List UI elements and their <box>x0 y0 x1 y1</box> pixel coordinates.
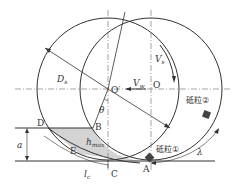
label-theta: θ <box>99 105 105 115</box>
label-grain-1: 砥粒① <box>156 144 179 154</box>
label-o-prime: O′ <box>111 85 120 95</box>
theta-arc <box>104 99 108 100</box>
label-point-b: B <box>95 122 102 132</box>
label-o: O <box>153 80 160 90</box>
depth-arrow-top-icon <box>25 128 29 133</box>
diagram-canvas: Ds O′ O Vw Vs θ D B E C A a hmax lc λ 砥粒… <box>0 0 239 189</box>
label-vw: Vw <box>133 78 146 89</box>
grain-2-icon <box>202 110 211 119</box>
label-vs: Vs <box>155 54 165 65</box>
label-grain-2: 砥粒② <box>186 95 209 105</box>
label-depth-a: a <box>17 140 22 150</box>
label-point-c: C <box>111 169 118 179</box>
label-point-a: A <box>142 164 150 174</box>
radius-upper <box>108 12 125 89</box>
label-ds: Ds <box>56 74 67 85</box>
lambda-arrow-right-icon <box>214 128 219 134</box>
label-lc: lc <box>84 169 91 180</box>
vw-arrow-icon <box>125 87 131 91</box>
depth-arrow-bottom-icon <box>25 156 29 161</box>
label-lambda: λ <box>196 147 203 157</box>
vs-arrow-icon <box>172 76 176 83</box>
grinding-diagram: Ds O′ O Vw Vs θ D B E C A a hmax lc λ 砥粒… <box>0 0 239 189</box>
diameter-line <box>45 48 108 89</box>
label-point-d: D <box>37 118 44 128</box>
label-point-e: E <box>70 146 77 156</box>
